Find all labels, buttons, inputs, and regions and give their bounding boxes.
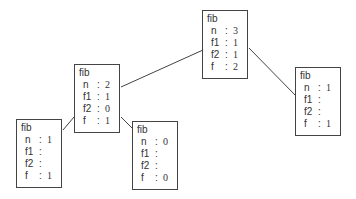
field-f1: f1: xyxy=(21,146,61,158)
field-key: f2 xyxy=(25,158,39,170)
field-f1: f1: xyxy=(300,94,340,106)
node-title: fib xyxy=(21,122,61,134)
edge-root-left xyxy=(121,50,203,87)
field-key: n xyxy=(211,25,225,37)
edge-root-right xyxy=(249,48,296,96)
node-title: fib xyxy=(300,70,340,82)
node-fib-leftleft: fib n:1 f1: f2: f:1 xyxy=(16,119,62,188)
field-value: 3 xyxy=(233,25,238,37)
field-key: f1 xyxy=(304,94,318,106)
field-key: n xyxy=(25,134,39,146)
field-key: f xyxy=(83,115,97,127)
field-f1: f1:1 xyxy=(207,37,247,49)
field-n: n:1 xyxy=(21,134,61,146)
field-f: f:1 xyxy=(300,118,340,130)
field-value: 1 xyxy=(47,170,52,182)
field-value: 1 xyxy=(233,49,238,61)
node-fib-left: fib n:2 f1:1 f2:0 f:1 xyxy=(74,64,120,133)
field-key: n xyxy=(304,82,318,94)
edge-left-leftright xyxy=(121,117,132,128)
node-title: fib xyxy=(79,67,119,79)
field-key: f2 xyxy=(211,49,225,61)
field-f2: f2: xyxy=(300,106,340,118)
field-value: 2 xyxy=(233,61,238,73)
field-key: f1 xyxy=(83,91,97,103)
field-value: 1 xyxy=(47,134,52,146)
node-title: fib xyxy=(207,13,247,25)
field-f: f:1 xyxy=(79,115,119,127)
field-f1: f1:1 xyxy=(79,91,119,103)
field-n: n:1 xyxy=(300,82,340,94)
field-value: 1 xyxy=(326,82,331,94)
field-f2: f2:1 xyxy=(207,49,247,61)
field-value: 2 xyxy=(105,79,110,91)
node-title: fib xyxy=(137,124,177,136)
field-value: 0 xyxy=(105,103,110,115)
field-value: 1 xyxy=(326,118,331,130)
field-f: f:2 xyxy=(207,61,247,73)
field-f1: f1: xyxy=(137,148,177,160)
field-f: f:1 xyxy=(21,170,61,182)
field-key: f xyxy=(304,118,318,130)
field-f2: f2: xyxy=(21,158,61,170)
field-key: f1 xyxy=(141,148,155,160)
field-key: f xyxy=(25,170,39,182)
field-key: f xyxy=(211,61,225,73)
node-fib-right: fib n:1 f1: f2: f:1 xyxy=(295,67,341,136)
field-key: f1 xyxy=(25,146,39,158)
field-key: f xyxy=(141,172,155,184)
field-key: n xyxy=(83,79,97,91)
field-key: f2 xyxy=(304,106,318,118)
field-key: n xyxy=(141,136,155,148)
field-value: 0 xyxy=(163,136,168,148)
field-n: n:0 xyxy=(137,136,177,148)
field-value: 1 xyxy=(105,115,110,127)
field-n: n:2 xyxy=(79,79,119,91)
field-f2: f2:0 xyxy=(79,103,119,115)
edge-left-leftleft xyxy=(63,117,74,130)
field-f2: f2: xyxy=(137,160,177,172)
field-n: n:3 xyxy=(207,25,247,37)
field-value: 1 xyxy=(105,91,110,103)
field-f: f:0 xyxy=(137,172,177,184)
field-value: 1 xyxy=(233,37,238,49)
node-fib-leftright: fib n:0 f1: f2: f:0 xyxy=(132,121,178,190)
field-key: f2 xyxy=(141,160,155,172)
node-fib-root: fib n:3 f1:1 f2:1 f:2 xyxy=(202,10,248,79)
field-key: f2 xyxy=(83,103,97,115)
field-key: f1 xyxy=(211,37,225,49)
field-value: 0 xyxy=(163,172,168,184)
